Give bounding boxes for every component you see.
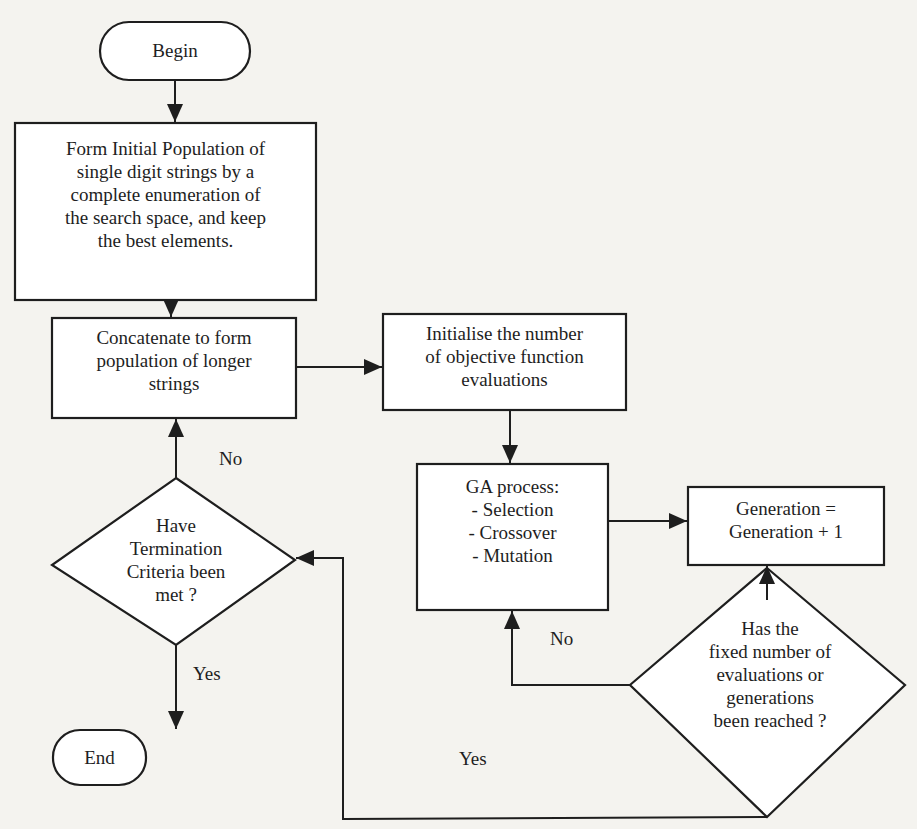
- initialise-label: Initialise the number of objective funct…: [383, 322, 626, 391]
- fixed-no-label: No: [550, 628, 573, 650]
- termination-yes-label: Yes: [193, 663, 221, 685]
- termination-decision-label: Have Termination Criteria been met ?: [96, 514, 256, 606]
- concatenate-label: Concatenate to form population of longer…: [52, 326, 296, 395]
- generation-label: Generation = Generation + 1: [688, 497, 884, 543]
- end-label: End: [53, 746, 146, 769]
- ga-process-label: GA process: - Selection - Crossover - Mu…: [417, 475, 608, 567]
- termination-no-label: No: [219, 448, 242, 470]
- fixed-number-decision-label: Has the fixed number of evaluations or g…: [680, 617, 860, 732]
- fixed-yes-label: Yes: [459, 748, 487, 770]
- initial-population-label: Form Initial Population of single digit …: [15, 137, 316, 252]
- begin-label: Begin: [100, 39, 250, 62]
